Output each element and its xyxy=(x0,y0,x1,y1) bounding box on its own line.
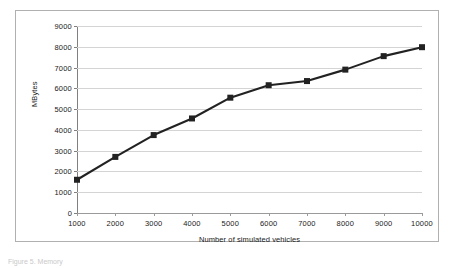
x-tick-mark xyxy=(115,213,116,216)
data-point-marker xyxy=(419,44,425,50)
x-axis-tick-label: 10000 xyxy=(411,219,433,228)
chart-area: MBytes 010002000300040005000600070008000… xyxy=(16,11,438,241)
data-point-marker xyxy=(189,115,195,121)
y-axis-tick-label: 9000 xyxy=(55,22,73,31)
x-tick-mark xyxy=(269,213,270,216)
figure-frame: MBytes 010002000300040005000600070008000… xyxy=(15,10,439,242)
y-axis-tick-label: 5000 xyxy=(55,105,73,114)
x-tick-mark xyxy=(345,213,346,216)
plot-area: 0100020003000400050006000700080009000 10… xyxy=(77,26,422,213)
x-axis-tick-label: 1000 xyxy=(68,219,86,228)
data-point-marker xyxy=(304,78,310,84)
x-axis-tick-label: 4000 xyxy=(183,219,201,228)
y-axis-tick-label: 4000 xyxy=(55,125,73,134)
x-axis-tick-label: 7000 xyxy=(298,219,316,228)
data-point-marker xyxy=(266,82,272,88)
data-point-marker xyxy=(151,132,157,138)
y-axis-tick-label: 7000 xyxy=(55,63,73,72)
y-axis-tick-label: 1000 xyxy=(55,188,73,197)
x-tick-mark xyxy=(192,213,193,216)
x-tick-mark xyxy=(230,213,231,216)
data-series-line xyxy=(77,26,422,213)
series-polyline xyxy=(77,47,422,180)
x-axis-tick-label: 3000 xyxy=(145,219,163,228)
x-tick-mark xyxy=(154,213,155,216)
x-axis-tick-label: 9000 xyxy=(375,219,393,228)
data-point-marker xyxy=(342,67,348,73)
x-tick-mark xyxy=(307,213,308,216)
x-tick-mark xyxy=(384,213,385,216)
x-tick-mark xyxy=(77,213,78,216)
data-point-marker xyxy=(74,177,80,183)
x-axis-tick-label: 2000 xyxy=(107,219,125,228)
x-axis-title: Number of simulated vehicles xyxy=(77,235,422,244)
x-tick-mark xyxy=(422,213,423,216)
y-axis-tick-label: 8000 xyxy=(55,42,73,51)
x-axis-tick-label: 8000 xyxy=(337,219,355,228)
y-axis-tick-label: 6000 xyxy=(55,84,73,93)
data-point-marker xyxy=(227,95,233,101)
series-markers xyxy=(74,44,425,183)
x-axis-tick-label: 6000 xyxy=(260,219,278,228)
y-axis-tick-label: 2000 xyxy=(55,167,73,176)
y-axis-tick-label: 3000 xyxy=(55,146,73,155)
x-axis-tick-label: 5000 xyxy=(222,219,240,228)
data-point-marker xyxy=(112,154,118,160)
figure-caption: Figure 5. Memory xyxy=(8,258,63,268)
y-axis-title: MBytes xyxy=(30,47,39,107)
gridline xyxy=(77,213,422,214)
y-axis-tick-label: 0 xyxy=(68,209,72,218)
data-point-marker xyxy=(381,53,387,59)
